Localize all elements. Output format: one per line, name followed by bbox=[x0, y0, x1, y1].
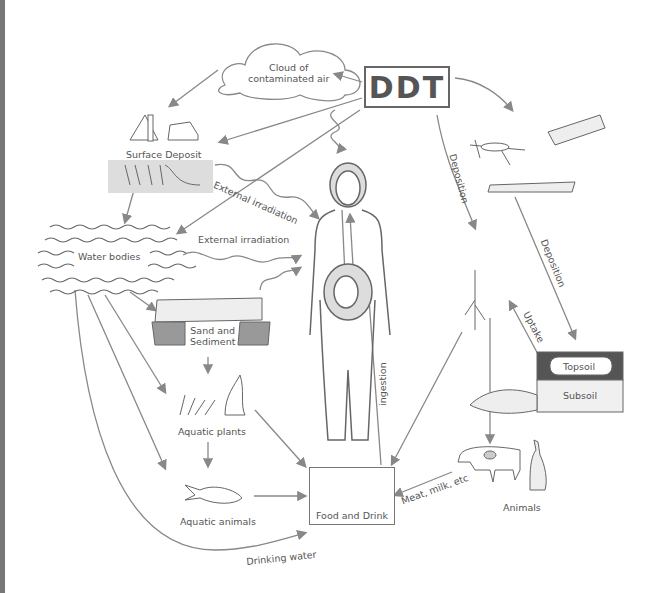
cloud-label: Cloud of contaminated air bbox=[248, 63, 329, 85]
water-bodies-label: Water bodies bbox=[78, 252, 140, 263]
ddt-box: DDT bbox=[364, 66, 450, 108]
food-and-drink-box: Food and Drink bbox=[309, 467, 395, 525]
soil-layers-illustration bbox=[470, 352, 623, 413]
surface-deposit-label: Surface Deposit bbox=[126, 150, 202, 161]
subsoil-label: Subsoil bbox=[563, 391, 597, 402]
aquatic-animals-label: Aquatic animals bbox=[180, 517, 256, 528]
animals-label: Animals bbox=[503, 503, 541, 514]
external-irradiation-label-2: External irradiation bbox=[198, 235, 289, 246]
topsoil-label: Topsoil bbox=[563, 362, 595, 373]
fish-illustration bbox=[185, 485, 242, 503]
dandelion-illustration bbox=[465, 270, 485, 330]
animals-illustration bbox=[458, 440, 546, 490]
aquatic-plants-label: Aquatic plants bbox=[178, 427, 246, 438]
ingestion-label: ingestion bbox=[378, 362, 389, 406]
aquatic-plants-illustration bbox=[180, 375, 245, 415]
ddt-label: DDT bbox=[369, 70, 445, 105]
sand-sediment-label: Sand and Sediment bbox=[190, 326, 235, 348]
food-and-drink-label: Food and Drink bbox=[310, 510, 394, 521]
insects-illustration bbox=[470, 115, 605, 192]
